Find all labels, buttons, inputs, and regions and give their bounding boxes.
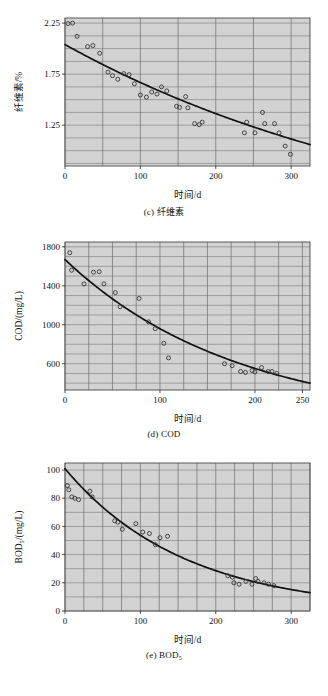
- figure-c: 1.251.752.250100200300时间/d纤维素/% (c) 纤维素: [0, 0, 328, 218]
- plot-background: [65, 18, 310, 166]
- x-tick-label: 200: [209, 616, 223, 626]
- x-tick-label: 300: [284, 171, 298, 181]
- y-tick-label: 100: [47, 465, 61, 475]
- x-axis-title: 时间/d: [174, 634, 202, 645]
- figure-c-caption: (c) 纤维素: [0, 205, 328, 218]
- chart-d-wrapper: 6001000140018000100200250时间/dCOD/(mg/L): [0, 224, 328, 429]
- x-tick-label: 300: [284, 616, 298, 626]
- y-tick-label: 1400: [42, 281, 61, 291]
- figure-page: 1.251.752.250100200300时间/d纤维素/% (c) 纤维素 …: [0, 0, 328, 696]
- figure-e-caption: (e) BOD₅: [0, 650, 328, 660]
- x-tick-label: 250: [296, 395, 310, 405]
- y-tick-label: 20: [51, 578, 61, 588]
- y-tick-label: 1800: [42, 242, 61, 252]
- x-axis: 0100200300: [63, 611, 299, 626]
- figure-d-caption: (d) COD: [0, 429, 328, 439]
- y-tick-label: 60: [51, 522, 61, 532]
- chart-c-wrapper: 1.251.752.250100200300时间/d纤维素/%: [0, 0, 328, 205]
- x-axis-title: 时间/d: [174, 413, 202, 424]
- plot-background: [65, 463, 310, 611]
- figure-e: 0204060801000100200300时间/dBOD₅/(mg/L) (e…: [0, 445, 328, 660]
- y-tick-label: 1.75: [44, 69, 60, 79]
- chart-e-wrapper: 0204060801000100200300时间/dBOD₅/(mg/L): [0, 445, 328, 650]
- y-tick-label: 600: [47, 359, 61, 369]
- x-axis: 0100200250: [63, 390, 310, 405]
- y-tick-label: 1000: [42, 320, 61, 330]
- chart-bod5: 0204060801000100200300时间/dBOD₅/(mg/L): [0, 445, 328, 650]
- y-axis-title: COD/(mg/L): [14, 291, 25, 341]
- figure-d: 6001000140018000100200250时间/dCOD/(mg/L) …: [0, 224, 328, 439]
- y-axis: 1.251.752.25: [44, 18, 65, 130]
- x-tick-label: 0: [63, 616, 68, 626]
- svg-text:COD/(mg/L): COD/(mg/L): [14, 291, 25, 341]
- chart-cellulose: 1.251.752.250100200300时间/d纤维素/%: [0, 0, 328, 205]
- plot-background: [65, 242, 310, 390]
- svg-text:纤维素/%: 纤维素/%: [13, 72, 24, 113]
- x-tick-label: 200: [209, 171, 223, 181]
- x-tick-label: 0: [63, 395, 68, 405]
- y-axis-title: BOD₅/(mg/L): [14, 511, 25, 564]
- x-tick-label: 100: [134, 616, 148, 626]
- y-tick-label: 2.25: [44, 18, 60, 28]
- y-tick-label: 40: [51, 550, 61, 560]
- y-axis: 020406080100: [47, 465, 66, 616]
- y-tick-label: 80: [51, 493, 61, 503]
- y-tick-label: 0: [56, 606, 61, 616]
- x-tick-label: 0: [63, 171, 68, 181]
- svg-text:BOD₅/(mg/L): BOD₅/(mg/L): [14, 511, 25, 564]
- x-tick-label: 100: [134, 171, 148, 181]
- y-axis: 600100014001800: [42, 242, 65, 369]
- chart-cod: 6001000140018000100200250时间/dCOD/(mg/L): [0, 224, 328, 429]
- x-axis: 0100200300: [63, 166, 299, 181]
- x-tick-label: 200: [248, 395, 262, 405]
- y-tick-label: 1.25: [44, 120, 60, 130]
- x-axis-title: 时间/d: [174, 189, 202, 200]
- x-tick-label: 100: [153, 395, 167, 405]
- y-axis-title: 纤维素/%: [13, 72, 24, 113]
